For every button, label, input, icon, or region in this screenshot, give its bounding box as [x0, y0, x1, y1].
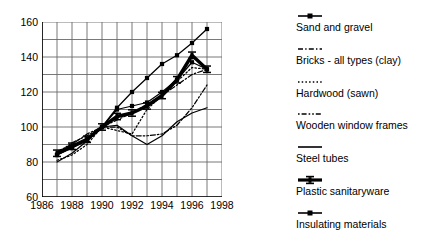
legend-key-marker-square: [308, 14, 313, 19]
series-marker-square: [85, 139, 89, 143]
y-axis-tick-label: 140: [20, 52, 38, 63]
legend-item-label: Bricks - all types (clay): [296, 54, 401, 66]
series-marker-square: [115, 107, 119, 111]
solid-line-key: [296, 139, 330, 151]
series-marker-square: [145, 100, 149, 104]
series-marker-square: [160, 62, 164, 66]
legend-item-label: Wooden window frames: [296, 119, 408, 131]
y-axis-tick-label: 120: [20, 87, 38, 98]
x-axis-tick-label: 1996: [180, 200, 203, 211]
series-marker-square: [175, 53, 179, 57]
solid-thin-line-key: [296, 8, 330, 20]
series-marker-square: [160, 90, 164, 94]
square-marker-line-key: [296, 205, 330, 217]
legend-key-marker-square: [308, 210, 313, 215]
y-axis-labels: 6080100120140160: [0, 22, 38, 197]
series-marker-square: [190, 60, 194, 64]
legend-item-label: Insulating materials: [296, 218, 386, 230]
x-axis-tick-label: 1992: [120, 200, 143, 211]
ibar-stem: [131, 110, 134, 115]
dash-dot-line-key: [296, 41, 330, 53]
dotted-line-key: [296, 74, 330, 86]
series-marker-square: [130, 90, 134, 94]
legend-item-label: Hardwood (sawn): [296, 87, 378, 99]
x-axis-tick-label: 1994: [150, 200, 173, 211]
legend-item-label: Steel tubes: [296, 152, 349, 164]
y-axis-tick-label: 80: [26, 157, 38, 168]
series-marker-square: [145, 76, 149, 80]
series-marker-square: [190, 41, 194, 45]
series-marker-square: [55, 153, 59, 157]
plot-area: [42, 22, 222, 197]
x-axis-tick-label: 1986: [30, 200, 53, 211]
series-marker-square: [100, 125, 104, 129]
ibar-stem: [116, 114, 119, 119]
y-axis-tick-label: 100: [20, 122, 38, 133]
x-axis-tick-label: 1988: [60, 200, 83, 211]
legend-item-label: Sand and gravel: [296, 21, 372, 33]
series-marker-square: [70, 146, 74, 150]
x-axis-tick-label: 1998: [210, 200, 233, 211]
y-axis-tick-label: 160: [20, 17, 38, 28]
chart-legend: Sand and gravelBricks - all types (clay)…: [296, 8, 428, 244]
series-marker-square: [205, 67, 209, 71]
line-chart: 6080100120140160 19861988199019921994199…: [0, 0, 240, 247]
series-marker-square: [130, 104, 134, 108]
chart-screenshot: 6080100120140160 19861988199019921994199…: [0, 0, 428, 247]
series-marker-square: [205, 27, 209, 31]
ibar-stem: [191, 53, 194, 58]
x-axis-labels: 1986198819901992199419961998: [42, 200, 222, 220]
series-marker-square: [175, 78, 179, 82]
ibar-marker-line-key: [296, 172, 330, 184]
legend-item-label: Plastic sanitaryware: [296, 185, 389, 197]
dash-dot-dot-line-key: [296, 106, 330, 118]
legend-key-ibar-stem: [309, 177, 312, 183]
x-axis-tick-label: 1990: [90, 200, 113, 211]
plot-svg: [42, 22, 222, 197]
